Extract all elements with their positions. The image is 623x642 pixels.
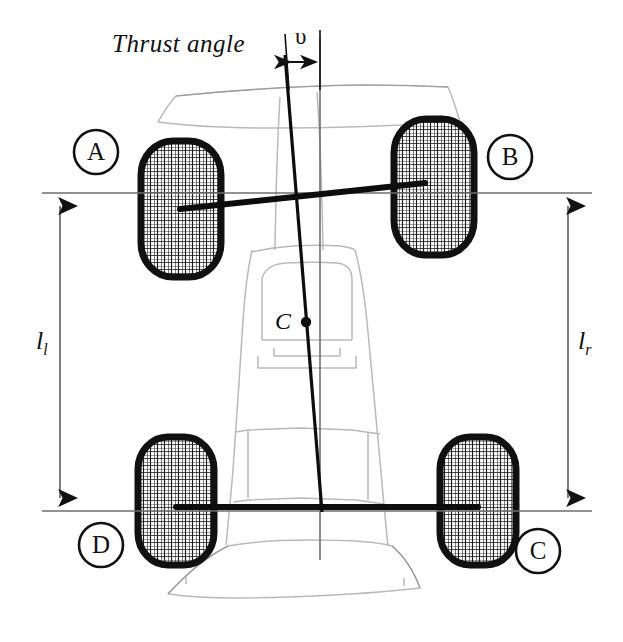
wheel-marker-label-d: D — [79, 531, 123, 559]
thrust-angle-diagram: Thrust angle υ A B C D C ll lr — [0, 0, 623, 642]
angle-symbol-label: υ — [295, 24, 306, 50]
cabin-top-line — [252, 245, 355, 252]
right-track-dimension-label: lr — [578, 326, 591, 359]
deck-inner-notch — [274, 348, 340, 356]
wheel-rear-left — [138, 437, 214, 565]
wheel-marker-label-a: A — [74, 138, 118, 166]
left-track-dimension-label: ll — [36, 326, 48, 359]
center-of-gravity-dot — [301, 317, 311, 327]
body-crease-lower — [234, 498, 384, 504]
center-of-gravity-label: C — [275, 308, 291, 335]
hood-edge-left — [275, 97, 280, 250]
wheel-rear-right — [440, 437, 516, 565]
left-dim-subscript: l — [43, 341, 47, 358]
body-crease-upper — [236, 428, 380, 434]
right-dim-subscript: r — [585, 341, 591, 358]
thrust-center-line — [285, 55, 322, 512]
deck-frame — [258, 356, 356, 368]
wheel-marker-label-b: B — [488, 143, 532, 171]
thrust-angle-title: Thrust angle — [112, 30, 245, 58]
wheel-marker-label-c: C — [516, 537, 560, 565]
